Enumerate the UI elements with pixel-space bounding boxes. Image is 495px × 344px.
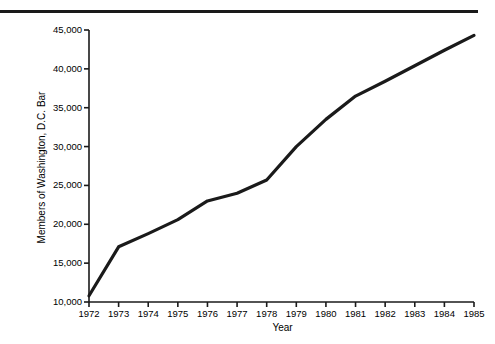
chart-figure: 10,00015,00020,00025,00030,00035,00040,0…	[0, 0, 495, 344]
line-chart-plot	[0, 0, 495, 344]
x-axis-title: Year	[0, 322, 495, 333]
y-axis-tick-label: 45,000	[36, 25, 82, 35]
data-series-line	[89, 35, 474, 295]
axis-lines	[89, 30, 474, 302]
x-axis-tick-label: 1985	[457, 309, 491, 319]
y-axis-tick-label: 10,000	[36, 297, 82, 307]
x-axis-title-text: Year	[202, 322, 292, 333]
y-axis-title: Members of Washington, D.C. Bar	[36, 53, 47, 283]
